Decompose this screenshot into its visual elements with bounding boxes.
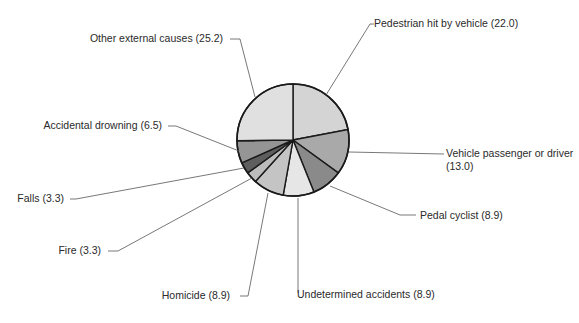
- slice-label-vehicle-passenger-or-driver: Vehicle passenger or driver: [446, 147, 574, 159]
- slice-label-undetermined-accidents: Undetermined accidents (8.9): [297, 288, 435, 300]
- slice-label-accidental-drowning: Accidental drowning (6.5): [44, 119, 162, 131]
- pie-slice-other-external-causes: [237, 84, 293, 141]
- slice-label-pedestrian-hit-by-vehicle: Pedestrian hit by vehicle (22.0): [374, 17, 518, 29]
- leader-line-falls: [70, 168, 244, 199]
- leader-line-homicide: [240, 193, 268, 296]
- leader-line-pedal-cyclist: [330, 186, 416, 215]
- slice-label-falls: Falls (3.3): [17, 192, 64, 204]
- slice-label-homicide: Homicide (8.9): [162, 289, 230, 301]
- leader-line-other-external-causes: [230, 39, 255, 97]
- leader-line-accidental-drowning: [168, 126, 239, 151]
- slice-label-fire: Fire (3.3): [58, 244, 101, 256]
- slice-label-pedal-cyclist: Pedal cyclist (8.9): [420, 209, 503, 221]
- pie-slices: [237, 84, 349, 196]
- slice-label-value-vehicle-passenger-or-driver: (13.0): [446, 160, 473, 172]
- pie-chart: Pedestrian hit by vehicle (22.0)Vehicle …: [0, 0, 579, 323]
- leader-line-pedestrian-hit-by-vehicle: [326, 24, 374, 95]
- slice-label-other-external-causes: Other external causes (25.2): [90, 32, 223, 44]
- leader-line-vehicle-passenger-or-driver: [349, 152, 444, 154]
